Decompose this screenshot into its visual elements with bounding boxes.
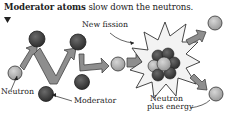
label-moderator: Moderator bbox=[74, 97, 116, 105]
label-neutron-plus-energy-2: plus energy bbox=[147, 103, 193, 111]
neutron-atom bbox=[209, 87, 223, 101]
neutron-path-arrow bbox=[20, 44, 109, 84]
neutron-atom bbox=[8, 66, 22, 80]
moderator-atom bbox=[39, 87, 54, 102]
neutron-atom bbox=[208, 16, 222, 30]
label-new-fission: New fission bbox=[82, 21, 128, 29]
neutron-atom bbox=[111, 57, 125, 71]
pointer-triangle-icon bbox=[4, 17, 11, 23]
moderator-atom bbox=[75, 75, 90, 90]
label-neutron: Neutron bbox=[1, 88, 34, 96]
moderator-atom bbox=[29, 31, 45, 47]
moderator-atom bbox=[70, 34, 86, 50]
